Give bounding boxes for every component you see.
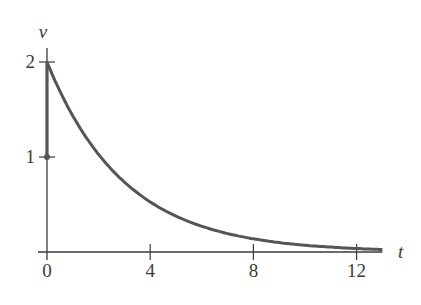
x-tick-label: 4 xyxy=(145,260,155,281)
y-tick-label: 1 xyxy=(26,146,36,167)
chart: 0481212tv xyxy=(0,0,421,305)
series xyxy=(44,62,382,250)
x-tick-label: 8 xyxy=(249,260,259,281)
y-axis-label: v xyxy=(39,21,48,42)
x-tick-label: 12 xyxy=(347,260,366,281)
y-tick-label: 2 xyxy=(26,51,36,72)
decay-curve xyxy=(47,62,382,250)
x-tick-label: 0 xyxy=(42,260,52,281)
x-axis-label: t xyxy=(398,241,404,262)
start-dot xyxy=(44,154,50,160)
labels: 0481212tv xyxy=(26,21,405,281)
